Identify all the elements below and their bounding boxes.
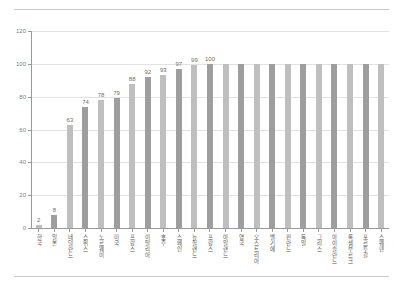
- x-tick-slot: [358, 228, 374, 232]
- x-tick-mark: [54, 228, 55, 232]
- bar[interactable]: [98, 100, 104, 228]
- bar[interactable]: [176, 69, 182, 228]
- bar-slot: 92: [140, 31, 156, 228]
- x-tick-slot: [233, 228, 249, 232]
- bar[interactable]: [207, 64, 213, 228]
- x-axis-label: 프랑스: [129, 234, 135, 284]
- x-tick-slot: [93, 228, 109, 232]
- bar[interactable]: [331, 64, 337, 228]
- bar-slot: 74: [78, 31, 94, 228]
- bar[interactable]: [269, 64, 275, 228]
- x-tick-mark: [318, 228, 319, 232]
- x-axis-label: 노르웨이: [98, 234, 104, 284]
- x-tick-slot: [327, 228, 343, 232]
- x-tick-slot: [31, 228, 47, 232]
- bar[interactable]: [114, 98, 120, 228]
- bar-slot: 8: [47, 31, 63, 228]
- bar-value-label: 93: [160, 67, 167, 73]
- bar[interactable]: [347, 64, 353, 228]
- x-label-slot: 오스트리아: [249, 234, 265, 284]
- x-tick-slot: [109, 228, 125, 232]
- x-axis-label: 독일: [301, 234, 307, 284]
- bar[interactable]: [316, 64, 322, 228]
- x-tick-mark: [256, 228, 257, 232]
- bar[interactable]: [67, 125, 73, 228]
- x-tick-mark: [350, 228, 351, 232]
- x-tick-mark: [194, 228, 195, 232]
- bar-value-label: 97: [176, 61, 183, 67]
- x-axis-label: 아일랜드: [223, 234, 229, 284]
- bar[interactable]: [238, 64, 244, 228]
- bar[interactable]: [82, 107, 88, 228]
- x-axis-label: 그리스: [316, 234, 322, 284]
- x-label-slot: 벨기에: [264, 234, 280, 284]
- x-axis-labels: 한국일본네덜란드스위스노르웨이미국프랑스이탈리아호주스페인뉴질랜드프랑스아일랜드…: [31, 234, 389, 284]
- x-tick-slot: [62, 228, 78, 232]
- bar[interactable]: [363, 64, 369, 228]
- x-tick-mark: [334, 228, 335, 232]
- bar-slot: [358, 31, 374, 228]
- x-tick-mark: [272, 228, 273, 232]
- bar-value-label: 92: [144, 69, 151, 75]
- x-axis-label: 한국: [36, 234, 42, 284]
- x-tick-mark: [38, 228, 39, 232]
- bar-slot: [233, 31, 249, 228]
- y-tick-label: 0: [0, 225, 26, 231]
- bar[interactable]: [51, 215, 57, 228]
- x-axis-label: 뉴질랜드: [192, 234, 198, 284]
- x-tick-mark: [132, 228, 133, 232]
- bar-slot: 79: [109, 31, 125, 228]
- x-label-slot: 스위스: [78, 234, 94, 284]
- bar-value-label: 63: [67, 117, 74, 123]
- bar-slot: [218, 31, 234, 228]
- x-tick-slot: [202, 228, 218, 232]
- bar[interactable]: [254, 64, 260, 228]
- x-label-slot: 뉴질랜드: [187, 234, 203, 284]
- x-tick-mark: [365, 228, 366, 232]
- x-tick-slot: [218, 228, 234, 232]
- x-tick-slot: [187, 228, 203, 232]
- x-axis-label: 핀란드: [285, 234, 291, 284]
- bar-slot: 93: [156, 31, 172, 228]
- x-label-slot: 아이슬란드: [327, 234, 343, 284]
- y-tick-label: 40: [0, 159, 26, 165]
- x-label-slot: 이탈리아: [140, 234, 156, 284]
- bar[interactable]: [129, 84, 135, 228]
- bar-slot: [342, 31, 358, 228]
- bar-slot: 2: [31, 31, 47, 228]
- bar[interactable]: [378, 64, 384, 228]
- bar-series: 28637478798892939799100: [31, 31, 389, 228]
- bar-slot: 100: [202, 31, 218, 228]
- bar[interactable]: [160, 75, 166, 228]
- x-tick-slot: [47, 228, 63, 232]
- x-axis-label: 룩셈부르크: [347, 234, 353, 284]
- x-axis-label: 미국: [114, 234, 120, 284]
- x-tick-mark: [101, 228, 102, 232]
- bar-slot: 63: [62, 31, 78, 228]
- bar[interactable]: [223, 64, 229, 228]
- x-axis-label: 스웨덴: [378, 234, 384, 284]
- x-label-slot: 그리스: [311, 234, 327, 284]
- x-tick-mark: [147, 228, 148, 232]
- x-axis-label: 호주: [161, 234, 167, 284]
- x-axis-label: 포르투갈: [363, 234, 369, 284]
- bar-value-label: 100: [205, 56, 215, 62]
- x-tick-slot: [156, 228, 172, 232]
- bar[interactable]: [145, 77, 151, 228]
- x-tick-mark: [85, 228, 86, 232]
- x-label-slot: 룩셈부르크: [342, 234, 358, 284]
- bar[interactable]: [191, 65, 197, 228]
- bar[interactable]: [285, 64, 291, 228]
- x-tick-mark: [303, 228, 304, 232]
- bar-chart: 020406080100120 28637478798892939799100 …: [0, 20, 403, 270]
- x-tick-mark: [241, 228, 242, 232]
- x-label-slot: 미국: [109, 234, 125, 284]
- x-label-slot: 프랑스: [124, 234, 140, 284]
- x-tick-slot: [373, 228, 389, 232]
- bar[interactable]: [300, 64, 306, 228]
- bar-value-label: 8: [53, 207, 56, 213]
- x-label-slot: 프랑스: [202, 234, 218, 284]
- bar-value-label: 99: [191, 57, 198, 63]
- x-tick-slot: [140, 228, 156, 232]
- x-axis-label: 아이슬란드: [332, 234, 338, 284]
